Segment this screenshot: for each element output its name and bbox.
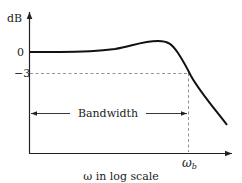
y-axis-label: dB <box>7 12 22 25</box>
bandwidth-diagram: dB 0 −3 Bandwidth ωb ω in log scale <box>0 0 242 183</box>
omega-b-label: ωb <box>182 156 197 171</box>
omega-subscript: b <box>192 162 197 171</box>
bandwidth-label: Bandwidth <box>78 107 138 120</box>
tick-label-minus3: −3 <box>14 67 30 80</box>
tick-label-zero: 0 <box>17 46 24 59</box>
x-axis-label: ω in log scale <box>83 170 159 183</box>
omega-symbol: ω <box>182 156 192 170</box>
